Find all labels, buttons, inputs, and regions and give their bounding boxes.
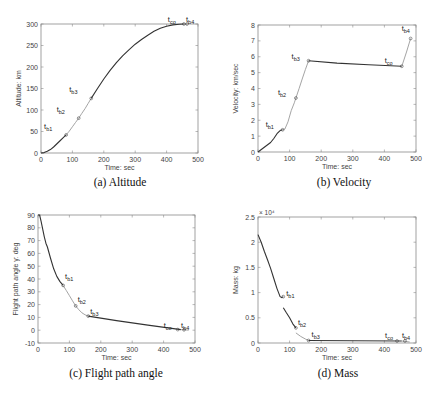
y-axis-label: Mass: kg <box>232 266 240 294</box>
series-line-stage2 <box>63 285 76 306</box>
axes-box <box>258 217 416 343</box>
y-tick-label: 150 <box>26 85 38 92</box>
y-tick-label: 0 <box>31 327 35 334</box>
chart-velocity: 0100200300400500012345678Time: secVeloci… <box>232 22 422 171</box>
series-line-stage3 <box>296 61 309 98</box>
y-tick-label: 100 <box>26 107 38 114</box>
axes-box <box>41 24 198 153</box>
event-label-tb2: tb2 <box>278 88 286 98</box>
series-line-stage2 <box>66 118 79 135</box>
x-tick-label: 100 <box>67 156 79 163</box>
x-axis-label: Time: sec <box>101 354 132 361</box>
x-tick-label: 300 <box>129 156 141 163</box>
y-tick-label: 7 <box>251 37 255 44</box>
event-label-tco: tco <box>385 331 393 341</box>
x-tick-label: 400 <box>161 156 173 163</box>
y-axis-label: Flight path angle γ: deg <box>12 243 20 316</box>
event-label-tb1: tb1 <box>286 289 294 299</box>
y-tick-label: 4 <box>251 85 255 92</box>
x-axis-label: Time: sec <box>322 163 353 170</box>
event-label-tco: tco <box>168 15 176 25</box>
event-label-tb4: tb4 <box>402 331 410 341</box>
series-line-stage1 <box>41 135 66 153</box>
y-tick-label: 2.5 <box>245 214 255 221</box>
plots-canvas: 0100200300400500050100150200250300Time: … <box>0 0 441 403</box>
x-tick-label: 500 <box>410 155 422 162</box>
y-tick-label: 300 <box>26 21 38 28</box>
x-tick-label: 500 <box>410 346 422 353</box>
event-label-tb3: tb3 <box>90 307 98 317</box>
x-tick-label: 200 <box>95 346 107 353</box>
y-tick-label: 3 <box>251 101 255 108</box>
chart-altitude: 0100200300400500050100150200250300Time: … <box>15 15 204 171</box>
y-tick-label: 60 <box>27 250 35 257</box>
x-tick-label: 100 <box>284 346 296 353</box>
event-label-tb1: tb1 <box>44 122 52 132</box>
series-line-stage5 <box>402 39 411 67</box>
event-label-tb4: tb4 <box>181 321 189 331</box>
event-label-tb3: tb3 <box>312 330 320 340</box>
event-label-tb1: tb1 <box>266 120 274 130</box>
x-tick-label: 100 <box>64 346 76 353</box>
y-axis-label: Altitude: km <box>15 70 22 107</box>
y-tick-label: 2 <box>251 239 255 246</box>
y-tick-label: 50 <box>27 263 35 270</box>
series-line-stage1 <box>258 235 283 298</box>
x-tick-label: 100 <box>284 155 296 162</box>
x-tick-label: 500 <box>189 346 201 353</box>
series-line-stage3 <box>76 306 89 316</box>
y-tick-label: 250 <box>26 42 38 49</box>
axes-box <box>258 25 416 152</box>
x-tick-label: 0 <box>39 156 43 163</box>
y-tick-label: 50 <box>30 128 38 135</box>
caption-flight-path-angle: (c) Flight path angle <box>69 367 163 379</box>
event-label-tb2: tb2 <box>57 105 65 115</box>
series-line-stage3 <box>296 333 309 341</box>
y-tick-label: 2 <box>251 117 255 124</box>
y-tick-label: -10 <box>25 340 35 347</box>
y-tick-label: 40 <box>27 276 35 283</box>
y-tick-label: 80 <box>27 224 35 231</box>
series-line-stage2 <box>283 308 296 328</box>
event-label-tb2: tb2 <box>78 295 86 305</box>
x-tick-label: 400 <box>158 346 170 353</box>
x-tick-label: 300 <box>347 155 359 162</box>
y-tick-label: 30 <box>27 288 35 295</box>
y-tick-label: 0 <box>251 149 255 156</box>
x-tick-label: 200 <box>315 155 327 162</box>
y-tick-label: 1 <box>251 133 255 140</box>
y-tick-label: 200 <box>26 64 38 71</box>
caption-velocity: (b) Velocity <box>317 176 371 188</box>
event-label-tb4: tb4 <box>402 24 410 34</box>
series-line-stage1 <box>258 130 283 152</box>
chart-mass: 010020030040050000.511.522.5× 10⁴Time: s… <box>232 209 422 361</box>
figure: 0100200300400500050100150200250300Time: … <box>0 0 441 403</box>
event-label-tco: tco <box>164 321 172 331</box>
y-tick-label: 0 <box>251 340 255 347</box>
event-label-tb2: tb2 <box>298 318 306 328</box>
x-tick-label: 0 <box>256 346 260 353</box>
series-line-stage2 <box>283 98 296 130</box>
y-tick-label: 90 <box>27 212 35 219</box>
y-tick-label: 8 <box>251 22 255 29</box>
y-tick-label: 10 <box>27 314 35 321</box>
y-tick-label: 1 <box>251 289 255 296</box>
y-tick-label: 1.5 <box>245 264 255 271</box>
caption-mass: (d) Mass <box>318 367 359 379</box>
x-tick-label: 200 <box>98 156 110 163</box>
event-label-tco: tco <box>385 56 393 66</box>
x-tick-label: 500 <box>192 156 204 163</box>
x-axis-label: Time: sec <box>322 354 353 361</box>
series-line-stage1 <box>38 215 63 285</box>
y-tick-label: 0.5 <box>245 314 255 321</box>
y-exponent-label: × 10⁴ <box>259 209 275 216</box>
y-tick-label: 70 <box>27 237 35 244</box>
x-axis-label: Time: sec <box>104 164 135 171</box>
event-label-tb1: tb1 <box>65 272 73 282</box>
x-tick-label: 300 <box>347 346 359 353</box>
x-tick-label: 300 <box>126 346 138 353</box>
x-tick-label: 400 <box>379 346 391 353</box>
chart-flight-path-angle: 0100200300400500-100102030405060708090Ti… <box>12 212 201 362</box>
x-tick-label: 0 <box>36 346 40 353</box>
series-line-stage4 <box>91 24 184 98</box>
